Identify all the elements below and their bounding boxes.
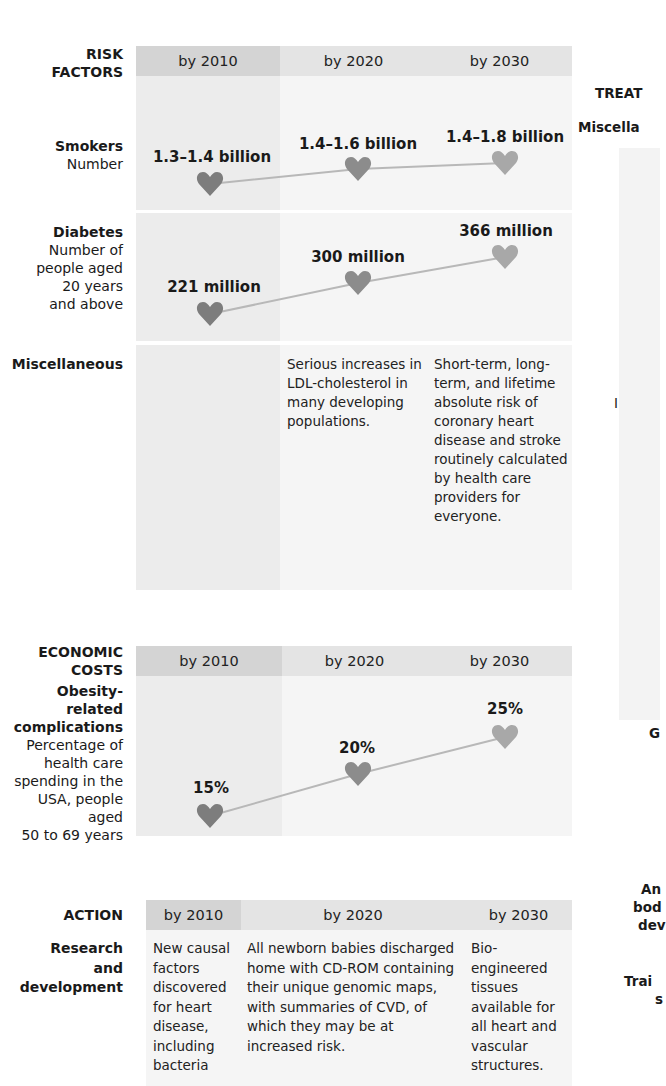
risk-factors-title: RISK FACTORS: [52, 45, 123, 81]
obesity-value-2020: 20%: [339, 739, 375, 757]
fragment-line: Trai: [600, 972, 660, 990]
econ-header-2010: by 2010: [136, 646, 282, 676]
title-line: RISK: [52, 45, 123, 63]
subtitle-line: spending in the: [0, 772, 123, 790]
heart-icon: [491, 244, 519, 270]
fragment-body-dev: An bod dev: [605, 880, 660, 934]
column-header-2030: by 2030: [427, 46, 572, 76]
misc-text-2020: Serious increases in LDL-cholesterol in …: [287, 355, 423, 431]
fragment-trans: Trai s: [600, 972, 660, 1008]
fragment-line: dev: [605, 916, 660, 934]
column-header-2010: by 2010: [136, 46, 280, 76]
econ-header-2030: by 2030: [427, 646, 572, 676]
heart-icon: [491, 150, 519, 176]
heart-icon: [196, 171, 224, 197]
misc-text-2030: Short-term, long-term, and lifetime abso…: [434, 355, 568, 526]
fragment-line: bod: [605, 898, 660, 916]
title-line: and: [20, 959, 123, 979]
heart-icon: [491, 724, 519, 750]
subtitle-line: Number of: [36, 241, 123, 259]
smokers-value-2030: 1.4–1.8 billion: [446, 128, 564, 146]
subtitle-line: health care: [0, 754, 123, 772]
subtitle-line: Percentage of: [0, 736, 123, 754]
diabetes-value-2020: 300 million: [311, 248, 405, 266]
title-line: Research: [20, 939, 123, 959]
diabetes-title: Diabetes: [36, 223, 123, 241]
action-header-2010: by 2010: [146, 900, 241, 930]
action-header-2020: by 2020: [241, 900, 465, 930]
subtitle-line: people aged: [36, 259, 123, 277]
subtitle-line: and above: [36, 295, 123, 313]
smokers-value-2020: 1.4–1.6 billion: [299, 135, 417, 153]
heart-icon: [196, 301, 224, 327]
fragment-i: I: [614, 394, 618, 412]
title-line: COSTS: [38, 661, 123, 679]
action-title: ACTION: [64, 906, 124, 924]
misc-title: Miscellaneous: [12, 355, 123, 373]
treatment-panel-partial: [619, 148, 660, 720]
economic-costs-title: ECONOMIC COSTS: [38, 643, 123, 679]
misc-cell-2010: [136, 345, 280, 590]
title-line: FACTORS: [52, 63, 123, 81]
diabetes-label: Diabetes Number of people aged 20 years …: [36, 223, 123, 313]
smokers-subtitle: Number: [55, 155, 123, 173]
fragment-line: An: [605, 880, 660, 898]
column-header-2020: by 2020: [280, 46, 427, 76]
title-line: development: [20, 978, 123, 998]
heart-icon: [344, 270, 372, 296]
smokers-title: Smokers: [55, 137, 123, 155]
action-header-2030: by 2030: [465, 900, 572, 930]
treatment-subtitle-partial: Miscella: [578, 118, 640, 136]
research-text-2020: All newborn babies discharged home with …: [247, 939, 459, 1056]
treatment-title-partial: TREAT: [595, 84, 642, 102]
obesity-value-2010: 15%: [193, 779, 229, 797]
title-line: complications: [0, 718, 123, 736]
subtitle-line: USA, people aged: [0, 790, 123, 826]
econ-cell-2020-2030: [282, 676, 572, 836]
research-text-2010: New causal factors discovered for heart …: [153, 939, 239, 1076]
obesity-label: Obesity-related complications Percentage…: [0, 682, 123, 844]
title-line: ECONOMIC: [38, 643, 123, 661]
obesity-value-2030: 25%: [487, 700, 523, 718]
econ-header-2020: by 2020: [282, 646, 427, 676]
research-label: Research and development: [20, 939, 123, 998]
heart-icon: [196, 803, 224, 829]
smokers-value-2010: 1.3–1.4 billion: [153, 148, 271, 166]
research-text-2030: Bio-engineered tissues available for all…: [471, 939, 569, 1076]
fragment-line: s: [600, 990, 660, 1008]
subtitle-line: 20 years: [36, 277, 123, 295]
diabetes-value-2010: 221 million: [167, 278, 261, 296]
heart-icon: [344, 761, 372, 787]
diabetes-value-2030: 366 million: [459, 222, 553, 240]
subtitle-line: 50 to 69 years: [0, 826, 123, 844]
misc-label: Miscellaneous: [12, 355, 123, 373]
heart-icon: [344, 156, 372, 182]
smokers-label: Smokers Number: [55, 137, 123, 173]
fragment-g: G: [649, 724, 660, 742]
title-line: Obesity-related: [0, 682, 123, 718]
